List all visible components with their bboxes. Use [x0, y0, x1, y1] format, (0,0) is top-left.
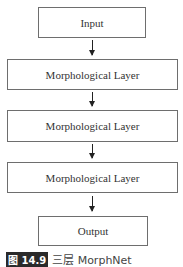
layer-1-label: Morphological Layer [46, 69, 140, 81]
morphological-layer-1: Morphological Layer [7, 59, 178, 90]
layer-2-label: Morphological Layer [46, 120, 140, 132]
output-label: Output [78, 225, 109, 237]
caption-text: 三层 MorphNet [52, 251, 132, 267]
arrow-down-icon [92, 196, 93, 211]
input-node: Input [38, 7, 146, 38]
arrow-down-icon [92, 92, 93, 106]
morphological-layer-3: Morphological Layer [7, 162, 178, 193]
figure-number-badge: 图 14.9 [6, 252, 48, 267]
output-node: Output [38, 216, 148, 246]
arrow-down-icon [92, 144, 93, 158]
layer-3-label: Morphological Layer [46, 172, 140, 184]
arrow-down-icon [92, 40, 93, 55]
input-label: Input [80, 17, 103, 29]
figure-caption: 图 14.9 三层 MorphNet [6, 252, 132, 266]
morphological-layer-2: Morphological Layer [7, 110, 178, 142]
